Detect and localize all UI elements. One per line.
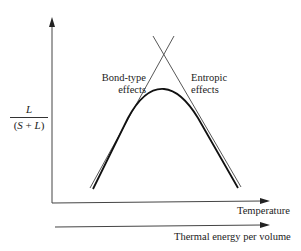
bond-type-label-line1: Bond-type: [88, 72, 146, 84]
y-axis-label-denominator: (S + L): [10, 119, 48, 132]
paren-close: ): [41, 119, 45, 131]
x-axis-arrowhead-icon: [260, 198, 270, 204]
x-axis-temperature: [52, 198, 270, 204]
entropic-label-line2: effects: [191, 84, 227, 96]
entropic-label: Entropic effects: [191, 72, 227, 96]
y-axis-label-numerator: L: [10, 103, 48, 116]
y-axis-arrowhead-icon: [49, 17, 55, 27]
bond-type-label-line2: effects: [88, 84, 146, 96]
entropic-label-line1: Entropic: [191, 72, 227, 84]
y-axis: [49, 17, 55, 203]
y-axis-label: L (S + L): [10, 103, 48, 132]
bond-type-label: Bond-type effects: [88, 72, 146, 96]
entropic-line: [153, 36, 241, 187]
x-axis-thermal-energy: [55, 222, 270, 228]
denominator-plus: +: [23, 119, 35, 131]
solubility-curve: [93, 89, 238, 189]
thermal-axis-arrowhead-icon: [260, 222, 270, 228]
thermal-energy-label: Thermal energy per volume: [174, 231, 291, 243]
temperature-label: Temperature: [237, 205, 290, 217]
fraction-bar: [10, 117, 48, 118]
